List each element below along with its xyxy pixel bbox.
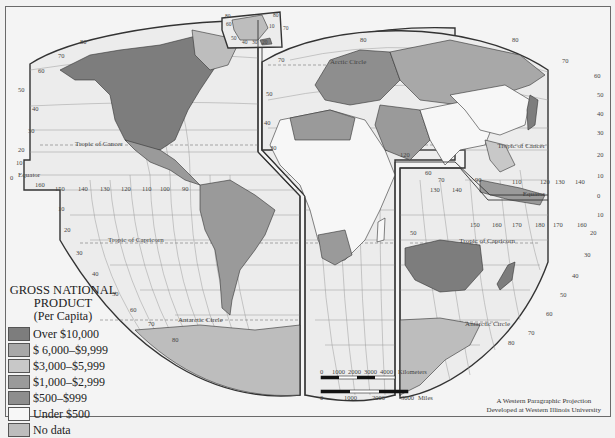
legend-item: No data (8, 422, 118, 438)
svg-text:70: 70 (283, 25, 289, 31)
swatch-1000-2999 (8, 375, 30, 389)
svg-text:70: 70 (528, 329, 535, 336)
svg-text:140: 140 (575, 178, 585, 185)
scale-bar-graphic: 0 1000 2000 3000 4000 Kilometers 0 1000 … (318, 366, 468, 400)
legend-item: $500–$999 (8, 390, 118, 406)
svg-text:10: 10 (58, 205, 65, 212)
svg-text:50: 50 (18, 86, 25, 93)
svg-text:0: 0 (10, 174, 13, 181)
svg-text:50: 50 (410, 229, 417, 236)
svg-text:120: 120 (400, 151, 410, 158)
svg-text:120: 120 (540, 178, 550, 185)
svg-text:130: 130 (430, 186, 440, 193)
svg-text:Kilometers: Kilometers (398, 368, 427, 375)
svg-text:3000: 3000 (401, 394, 414, 400)
legend-label: No data (33, 423, 71, 438)
svg-text:10: 10 (597, 211, 604, 218)
svg-text:170: 170 (512, 221, 522, 228)
svg-text:70: 70 (562, 57, 569, 64)
greenland-inset: 808060 504030 201070 (222, 12, 289, 48)
svg-text:130: 130 (100, 185, 110, 192)
svg-text:20: 20 (590, 229, 597, 236)
label-equator-left: Equator (18, 171, 41, 179)
legend-label: $500–$999 (33, 391, 87, 406)
svg-text:80: 80 (508, 339, 515, 346)
svg-text:4000: 4000 (380, 368, 393, 375)
svg-text:120: 120 (121, 185, 131, 192)
legend-item: $ 6,000–$9,999 (8, 342, 118, 358)
svg-text:40: 40 (242, 39, 248, 45)
svg-text:2000: 2000 (372, 394, 385, 400)
svg-text:60: 60 (425, 169, 432, 176)
svg-text:1000: 1000 (332, 368, 345, 375)
legend-label: $3,000–$5,999 (33, 359, 105, 374)
swatch-6000-9999 (8, 343, 30, 357)
svg-text:100: 100 (160, 185, 170, 192)
label-tropic-capricorn-right: Tropic of Capricorn (459, 237, 515, 245)
svg-text:140: 140 (78, 185, 88, 192)
svg-text:30: 30 (252, 39, 258, 45)
svg-text:40: 40 (264, 119, 271, 126)
svg-text:50: 50 (597, 91, 604, 98)
svg-text:1000: 1000 (344, 394, 357, 400)
label-tropic-cancer-left: Tropic of Cancer (75, 140, 123, 148)
svg-text:160: 160 (577, 221, 587, 228)
swatch-over-10000 (8, 327, 30, 341)
swatch-no-data (8, 423, 30, 437)
svg-text:10: 10 (269, 23, 275, 29)
svg-text:30: 30 (597, 129, 604, 136)
svg-text:110: 110 (142, 185, 152, 192)
svg-text:30: 30 (28, 127, 35, 134)
svg-text:60: 60 (226, 21, 232, 27)
legend: GROSS NATIONAL PRODUCT (Per Capita) Over… (8, 284, 118, 438)
svg-text:60: 60 (594, 72, 601, 79)
svg-text:60: 60 (546, 310, 553, 317)
svg-text:50: 50 (560, 291, 567, 298)
label-equator-right: Equator (523, 190, 546, 198)
svg-text:40: 40 (597, 110, 604, 117)
label-antarctic-circle-right: Antarctic Circle (465, 320, 510, 328)
svg-text:60: 60 (38, 67, 45, 74)
projection-name: A Western Paragraphic Projection (487, 397, 601, 406)
projection-credit: A Western Paragraphic Projection Develop… (487, 397, 601, 415)
svg-text:110: 110 (512, 178, 522, 185)
legend-subtitle: (Per Capita) (8, 310, 118, 323)
svg-text:20: 20 (18, 146, 25, 153)
svg-text:70: 70 (438, 176, 445, 183)
svg-text:60: 60 (130, 306, 137, 313)
svg-text:0: 0 (320, 394, 323, 400)
svg-text:2000: 2000 (348, 368, 361, 375)
svg-text:10: 10 (16, 159, 23, 166)
svg-text:30: 30 (270, 144, 277, 151)
svg-text:30: 30 (584, 251, 591, 258)
svg-text:80: 80 (172, 336, 179, 343)
legend-item: $3,000–$5,999 (8, 358, 118, 374)
svg-text:90: 90 (182, 185, 189, 192)
svg-text:170: 170 (553, 221, 563, 228)
legend-label: Under $500 (33, 407, 90, 422)
swatch-under-500 (8, 407, 30, 421)
label-antarctic-circle-left: Antarctic Circle (178, 316, 223, 324)
svg-text:70: 70 (148, 320, 155, 327)
legend-label: Over $10,000 (33, 327, 99, 342)
svg-text:50: 50 (266, 90, 273, 97)
legend-label: $1,000–$2,999 (33, 375, 105, 390)
svg-text:40: 40 (92, 270, 99, 277)
svg-text:50: 50 (231, 35, 237, 41)
madagascar (377, 218, 385, 242)
svg-text:3000: 3000 (364, 368, 377, 375)
svg-text:10: 10 (597, 172, 604, 179)
legend-item: Under $500 (8, 406, 118, 422)
svg-text:80: 80 (225, 13, 231, 19)
svg-text:Miles: Miles (418, 394, 433, 400)
projection-source: Developed at Western Illinois University (487, 406, 601, 415)
svg-text:80: 80 (273, 12, 279, 18)
legend-label: $ 6,000–$9,999 (33, 343, 108, 358)
scale-bar: 0 1000 2000 3000 4000 Kilometers 0 1000 … (318, 366, 468, 402)
svg-text:40: 40 (32, 105, 39, 112)
svg-text:20: 20 (597, 151, 604, 158)
swatch-3000-5999 (8, 359, 30, 373)
svg-text:140: 140 (452, 186, 462, 193)
label-arctic-circle: Arctic Circle (330, 58, 366, 66)
svg-text:20: 20 (64, 226, 71, 233)
